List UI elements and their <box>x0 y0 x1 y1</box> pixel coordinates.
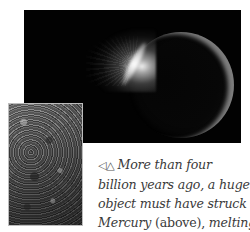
caption-line-1: ◁△More than four <box>98 155 248 175</box>
caption-line-2: billion years ago, a huge <box>98 175 248 194</box>
caption-line-3: object must have struck <box>98 194 248 213</box>
pointer-arrows-icon: ◁△ <box>98 159 115 172</box>
figure-caption: ◁△More than four billion years ago, a hu… <box>98 155 248 232</box>
caption-line-4: Mercury (above), melting <box>98 213 248 232</box>
cratered-surface-image <box>8 103 83 226</box>
